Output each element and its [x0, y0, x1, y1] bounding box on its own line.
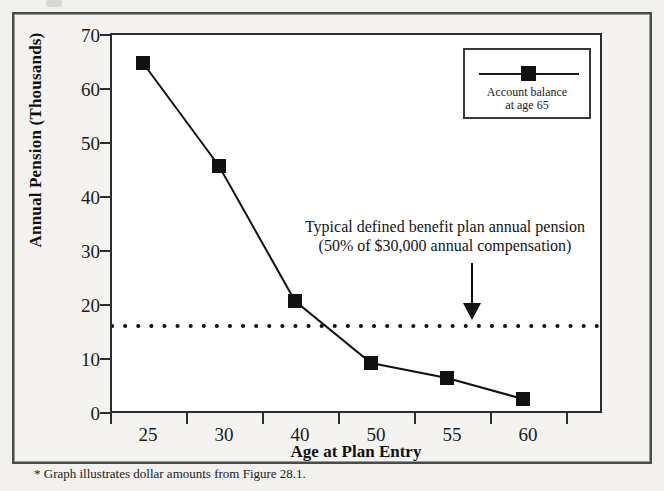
y-tick-label-60: 60	[52, 79, 100, 101]
annotation-line2: (50% of $30,000 annual compensation)	[319, 237, 572, 254]
x-tick-mark-4	[414, 413, 416, 424]
data-point-50	[364, 356, 378, 370]
legend-entry-line1: Account balance	[487, 85, 567, 99]
y-tick-label-0: 0	[52, 403, 100, 425]
x-tick-mark-6	[566, 413, 568, 424]
figure-container: 70 60 50 40 30 20 10 0 Annual Pension (T…	[0, 0, 664, 491]
legend-marker-sample	[521, 66, 536, 81]
y-axis-title: Annual Pension (Thousands)	[26, 30, 46, 250]
x-axis-title: Age at Plan Entry	[110, 442, 602, 462]
figure-footnote: * Graph illustrates dollar amounts from …	[34, 466, 306, 482]
x-tick-mark-0	[110, 413, 112, 424]
annotation-text: Typical defined benefit plan annual pens…	[300, 217, 590, 255]
x-tick-mark-5	[490, 413, 492, 424]
annotation-arrow-shaft	[471, 263, 473, 308]
y-tick-label-40: 40	[52, 187, 100, 209]
annotation-arrow-head	[463, 303, 481, 320]
x-tick-mark-3	[338, 413, 340, 424]
legend-entry-line2: at age 65	[505, 98, 548, 112]
data-point-30	[212, 159, 226, 173]
y-tick-label-70: 70	[52, 25, 100, 47]
legend-entry-label: Account balance at age 65	[465, 86, 589, 112]
x-tick-mark-1	[186, 413, 188, 424]
data-point-40	[288, 294, 302, 308]
data-point-25	[136, 56, 150, 70]
x-tick-mark-2	[262, 413, 264, 424]
y-tick-label-10: 10	[52, 349, 100, 371]
y-tick-label-30: 30	[52, 241, 100, 263]
y-tick-label-50: 50	[52, 133, 100, 155]
scan-artifact	[46, 0, 62, 7]
data-point-55	[440, 371, 454, 385]
annotation-line1: Typical defined benefit plan annual pens…	[305, 218, 585, 235]
legend-box: Account balance at age 65	[463, 48, 591, 119]
data-point-60	[516, 392, 530, 406]
y-tick-label-20: 20	[52, 295, 100, 317]
